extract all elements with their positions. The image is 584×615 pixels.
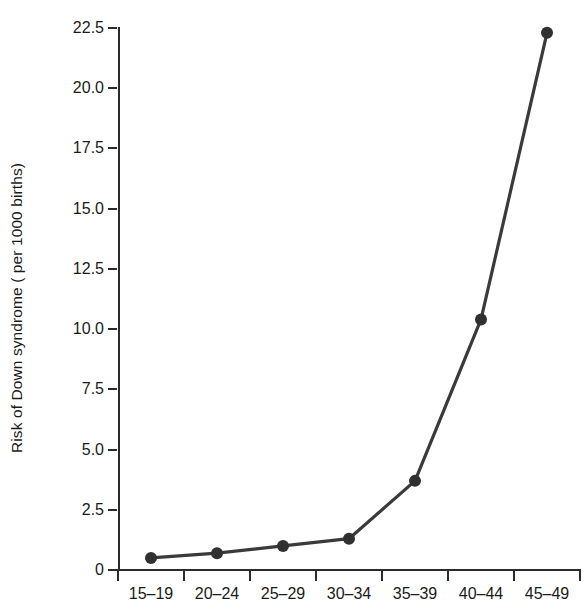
x-axis-tick-label: 15–19 <box>129 585 174 603</box>
x-axis-tick-mark <box>183 571 185 581</box>
data-point <box>541 27 553 39</box>
x-axis-tick-marks <box>118 571 580 583</box>
y-axis-tick-label: 2.5 <box>82 502 104 518</box>
y-axis-tick-mark <box>108 509 117 511</box>
data-series-line <box>118 28 580 570</box>
y-axis-tick-mark <box>108 147 117 149</box>
y-axis-tick-mark <box>108 87 117 89</box>
x-axis-tick-mark <box>513 571 515 581</box>
x-axis-tick-label: 25–29 <box>261 585 306 603</box>
data-point-markers <box>145 27 553 564</box>
y-axis-tick-mark <box>108 328 117 330</box>
y-axis-tick-label: 17.5 <box>73 140 104 156</box>
line-path <box>151 33 547 558</box>
data-point <box>409 475 421 487</box>
data-point <box>277 540 289 552</box>
y-axis-tick-label: 20.0 <box>73 80 104 96</box>
x-axis-tick-mark <box>447 571 449 581</box>
y-axis-tick-label: 7.5 <box>82 381 104 397</box>
data-point <box>211 547 223 559</box>
x-axis-tick-label: 45–49 <box>525 585 570 603</box>
y-axis-tick-mark <box>108 27 117 29</box>
y-axis-tick-label: 22.5 <box>73 20 104 36</box>
data-point <box>145 552 157 564</box>
y-axis-tick-label: 5.0 <box>82 442 104 458</box>
y-axis-tick-labels: 02.55.07.510.012.515.017.520.022.5 <box>0 28 118 570</box>
data-point <box>343 533 355 545</box>
x-axis-tick-mark <box>315 571 317 581</box>
y-axis-tick-mark <box>108 388 117 390</box>
y-axis-tick-mark <box>108 268 117 270</box>
chart-figure: Risk of Down syndrome ( per 1000 births)… <box>0 0 584 615</box>
x-axis-tick-mark <box>381 571 383 581</box>
x-axis-tick-mark <box>117 571 119 581</box>
y-axis-tick-label: 12.5 <box>73 261 104 277</box>
x-axis-tick-label: 35–39 <box>393 585 438 603</box>
x-axis-tick-label: 20–24 <box>195 585 240 603</box>
y-axis-tick-label: 0 <box>95 562 104 578</box>
x-axis-tick-label: 30–34 <box>327 585 372 603</box>
x-axis-tick-label: 40–44 <box>459 585 504 603</box>
x-axis-tick-mark <box>249 571 251 581</box>
x-axis-tick-mark <box>579 571 581 581</box>
y-axis-tick-mark <box>108 208 117 210</box>
plot-area <box>118 28 580 570</box>
y-axis-tick-label: 10.0 <box>73 321 104 337</box>
y-axis-tick-mark <box>108 449 117 451</box>
x-axis-tick-labels: 15–1920–2425–2930–3435–3940–4445–49 <box>118 585 580 609</box>
y-axis-tick-label: 15.0 <box>73 201 104 217</box>
y-axis-tick-mark <box>108 569 117 571</box>
data-point <box>475 313 487 325</box>
